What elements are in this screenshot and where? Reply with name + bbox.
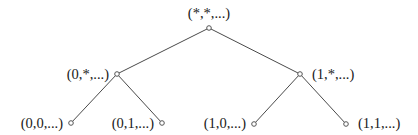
node-label-n1: (1,*,...) bbox=[312, 66, 354, 83]
tree-labels: (*,*,...)(0,*,...)(1,*,...)(0,0,...)(0,1… bbox=[21, 5, 401, 132]
node-label-n01: (0,1,...) bbox=[112, 115, 154, 132]
node-n10 bbox=[252, 122, 257, 127]
node-label-root: (*,*,...) bbox=[188, 5, 230, 22]
node-n01 bbox=[160, 121, 165, 126]
node-n0 bbox=[115, 72, 120, 77]
edge-root-n0 bbox=[117, 28, 209, 74]
node-root bbox=[207, 26, 212, 31]
tree-canvas: (*,*,...)(0,*,...)(1,*,...)(0,0,...)(0,1… bbox=[0, 0, 418, 135]
tree-nodes bbox=[69, 26, 349, 127]
node-n1 bbox=[298, 72, 303, 77]
node-label-n0: (0,*,...) bbox=[67, 66, 109, 83]
node-label-n11: (1,1,...) bbox=[358, 115, 400, 132]
tree-edges bbox=[71, 28, 346, 124]
node-n11 bbox=[344, 122, 349, 127]
node-n00 bbox=[69, 121, 74, 126]
edge-n1-n10 bbox=[254, 74, 300, 124]
node-label-n00: (0,0,...) bbox=[21, 115, 63, 132]
node-label-n10: (1,0,...) bbox=[204, 115, 246, 132]
binary-tree-diagram: (*,*,...)(0,*,...)(1,*,...)(0,0,...)(0,1… bbox=[0, 0, 418, 135]
edge-root-n1 bbox=[209, 28, 300, 74]
